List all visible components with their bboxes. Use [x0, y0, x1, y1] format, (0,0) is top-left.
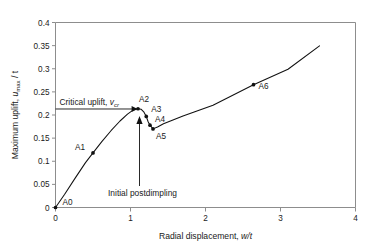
tick-labels: 00.050.10.150.20.250.30.350.401234 [34, 19, 359, 224]
y-tick-label: 0.4 [38, 19, 50, 28]
y-tick-label: 0.1 [38, 157, 50, 166]
x-tick-label: 1 [128, 214, 133, 223]
y-tick-label: 0.15 [34, 134, 50, 143]
data-point-marker [136, 107, 140, 111]
data-point-marker [91, 151, 95, 155]
axis-frame-left-bottom [56, 23, 356, 208]
chart-canvas: 00.050.10.150.20.250.30.350.401234 Criti… [0, 0, 373, 249]
x-tick-label: 2 [203, 214, 208, 223]
data-point-marker [144, 115, 148, 119]
axes [56, 23, 356, 208]
data-point-marker [54, 206, 58, 210]
data-curve [56, 46, 320, 208]
y-tick-label: 0.25 [34, 88, 50, 97]
data-point-label: A0 [63, 198, 73, 207]
data-point-marker [148, 123, 152, 127]
critical-uplift-label: Critical uplift, vcr [60, 97, 120, 108]
y-tick-label: 0.35 [34, 42, 50, 51]
y-tick-label: 0.3 [38, 65, 50, 74]
series-line [56, 46, 320, 208]
postdimpling-label: Initial postdimpling [108, 188, 177, 198]
chart-figure: 00.050.10.150.20.250.30.350.401234 Criti… [0, 0, 373, 249]
tick-marks [52, 23, 356, 212]
x-axis-title: Radial displacement, w/t [159, 231, 253, 241]
y-tick-label: 0.2 [38, 111, 50, 120]
postdimpling-arrowhead [136, 116, 142, 124]
y-axis-title: Maximum uplift, umax / t [10, 70, 21, 159]
data-point-label: A2 [139, 95, 149, 104]
data-point-label: A6 [259, 82, 269, 91]
x-tick-label: 0 [53, 214, 58, 223]
data-point-label: A4 [155, 115, 165, 124]
data-point-label: A1 [75, 143, 85, 152]
axis-frame-top-right [56, 23, 356, 208]
data-point-marker [252, 83, 256, 87]
x-tick-label: 3 [278, 214, 283, 223]
data-point-label: A5 [156, 132, 166, 141]
y-tick-label: 0 [45, 204, 50, 213]
data-point-label: A3 [151, 105, 161, 114]
y-tick-label: 0.05 [34, 180, 50, 189]
x-tick-label: 4 [353, 214, 358, 223]
data-point-marker [151, 127, 155, 131]
